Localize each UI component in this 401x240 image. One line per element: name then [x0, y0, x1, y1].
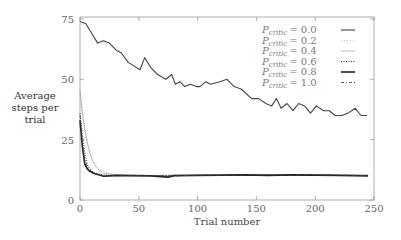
x-tick-label: 50: [132, 203, 145, 214]
y-tick-label: 50: [61, 74, 74, 85]
series-line-0: [80, 21, 367, 115]
series-line-3: [80, 113, 368, 176]
line-chart: 0501001502002500255075 Pcritic= 0.0Pcrit…: [0, 0, 401, 240]
x-tick-label: 250: [364, 203, 383, 214]
x-tick-label: 0: [77, 203, 83, 214]
y-tick-label: 0: [68, 195, 74, 206]
plot-frame: [80, 17, 374, 200]
series-line-1: [80, 89, 368, 176]
x-tick-label: 150: [247, 203, 266, 214]
x-tick-label: 100: [188, 203, 207, 214]
y-tick-label: 75: [61, 14, 74, 25]
x-tick-label: 200: [306, 203, 325, 214]
series-line-4: [80, 120, 368, 177]
y-tick-label: 25: [61, 135, 74, 146]
x-axis-title: Trial number: [194, 216, 261, 227]
series-line-5: [80, 116, 368, 176]
series-line-2: [80, 91, 368, 175]
legend: Pcritic= 0.0Pcritic= 0.2Pcritic= 0.4Pcri…: [261, 24, 355, 90]
